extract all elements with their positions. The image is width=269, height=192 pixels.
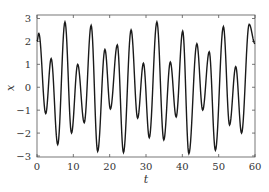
x-tick-label: 0 [34, 161, 40, 172]
x-tick-label: 60 [249, 161, 262, 172]
y-tick-label: −1 [16, 105, 31, 116]
y-tick-label: 2 [25, 36, 31, 47]
x-tick-label: 20 [103, 161, 116, 172]
x-axis-label: t [144, 173, 149, 186]
x-tick-label: 50 [212, 161, 225, 172]
y-axis-label: x [4, 84, 17, 91]
y-tick-label: 3 [25, 13, 31, 24]
x-tick-label: 40 [176, 161, 189, 172]
y-tick-label: 1 [25, 59, 31, 70]
x-tick-label: 30 [140, 161, 153, 172]
y-tick-label: 0 [25, 82, 31, 93]
x-tick-label: 10 [67, 161, 80, 172]
y-tick-label: −2 [16, 128, 31, 139]
line-chart: 0102030405060 −3−2−10123 t x [0, 0, 269, 192]
y-tick-label: −3 [16, 151, 31, 162]
data-series-line [37, 22, 255, 154]
